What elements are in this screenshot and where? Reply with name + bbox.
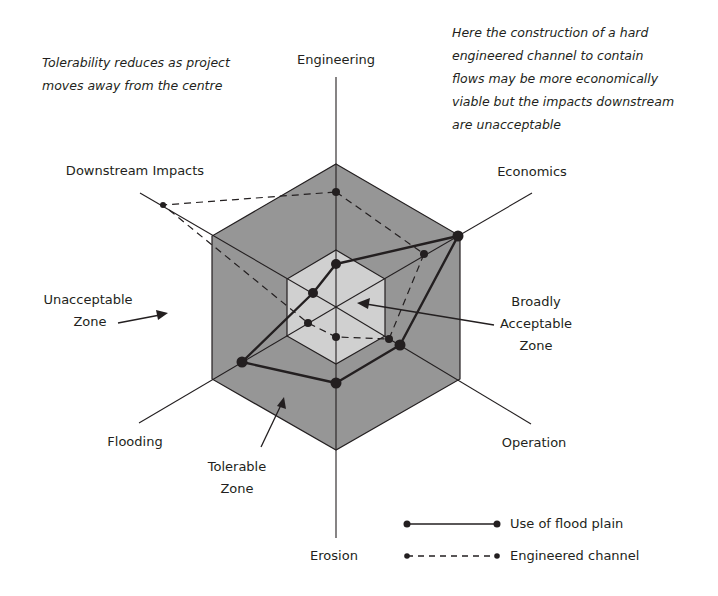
- axis-label-economics: Economics: [497, 161, 567, 183]
- note-engineered-channel: Here the construction of a hard engineer…: [452, 21, 674, 136]
- broadly-acceptable-zone-label: Broadly Acceptable Zone: [500, 291, 572, 357]
- radar-axes: [139, 77, 532, 538]
- note-tolerability: Tolerability reduces as project moves aw…: [42, 51, 230, 97]
- legend-label-use-of-flood-plain: Use of flood plain: [510, 513, 623, 535]
- legend-solid-swatch: [404, 521, 501, 528]
- unacceptable-zone-label: Unacceptable Zone: [43, 289, 132, 333]
- axis-label-erosion: Erosion: [310, 545, 358, 567]
- axis-label-operation: Operation: [502, 432, 567, 454]
- legend-dashed-swatch: [404, 553, 500, 559]
- axis-label-flooding: Flooding: [107, 431, 162, 453]
- axis-label-downstream-impacts: Downstream Impacts: [66, 160, 204, 182]
- tolerable-zone-label: Tolerable Zone: [208, 456, 266, 500]
- axis-label-engineering: Engineering: [297, 49, 375, 71]
- legend-label-engineered-channel: Engineered channel: [510, 545, 639, 567]
